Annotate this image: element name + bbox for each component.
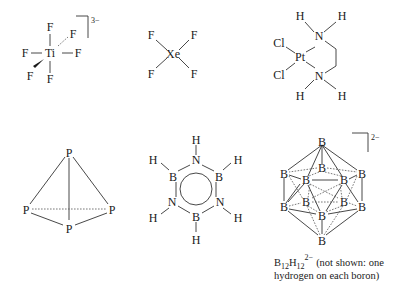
bond	[324, 80, 336, 89]
atom-h: H	[149, 153, 158, 167]
atom-cl: Cl	[273, 36, 285, 50]
atom-f: F	[47, 20, 54, 34]
structure-p4: P P P P	[23, 146, 116, 236]
atom-p: P	[66, 146, 73, 160]
bond	[325, 41, 336, 49]
atom-b: B	[302, 195, 310, 209]
atom-h: H	[192, 233, 201, 247]
atom-b: B	[318, 161, 326, 175]
dashed-bond	[289, 203, 301, 206]
structure-pt-complex: Cl Cl Pt N N H H H H	[273, 9, 346, 103]
atom-b: B	[318, 209, 326, 223]
atom-p: P	[109, 203, 116, 217]
atom-f: F	[27, 69, 34, 83]
charge-label: 3−	[91, 16, 100, 25]
atom-f: F	[148, 67, 155, 81]
structure-borazine: N B B N N B H H H H H H	[149, 133, 243, 247]
charge-bracket	[76, 16, 88, 38]
bond	[289, 209, 316, 214]
atom-h: H	[234, 153, 243, 167]
atom-f: F	[70, 27, 77, 41]
atom-b: B	[169, 170, 177, 184]
atom-f: F	[47, 72, 54, 86]
atom-n: N	[168, 195, 177, 209]
dashed-bond	[58, 37, 68, 46]
bond	[286, 63, 295, 70]
bond	[286, 47, 295, 53]
bond	[306, 47, 315, 52]
caption-line-2: hydrogen on each boron)	[274, 270, 380, 282]
atom-n: N	[315, 29, 324, 43]
bond	[31, 213, 63, 225]
atom-ti: Ti	[45, 46, 56, 60]
atom-b: B	[340, 195, 348, 209]
bond	[223, 163, 231, 170]
atom-n: N	[315, 69, 324, 83]
bond	[326, 211, 358, 235]
bond	[306, 62, 315, 68]
bond	[305, 22, 314, 32]
atom-pt: Pt	[295, 50, 306, 64]
wedge-bond	[33, 59, 44, 68]
caption-formula: B12H122−(not shown: one	[274, 253, 384, 271]
atom-h: H	[338, 89, 347, 103]
atom-h: H	[296, 89, 305, 103]
bond	[161, 163, 169, 170]
bond	[324, 22, 336, 32]
atom-b: B	[318, 234, 326, 248]
structure-b12h12: B B B B B B B B B B B B 2− B12H122−(not …	[274, 133, 384, 282]
bond	[286, 184, 300, 203]
bond	[289, 175, 301, 179]
charge-bracket	[352, 133, 368, 152]
bond	[288, 145, 322, 170]
atom-h: H	[338, 9, 347, 23]
atom-n: N	[192, 153, 201, 167]
bond	[178, 165, 190, 171]
bond	[30, 157, 65, 204]
atom-h: H	[234, 211, 243, 225]
atom-f: F	[148, 28, 155, 42]
atom-b: B	[302, 173, 310, 187]
bond	[305, 80, 314, 89]
bond	[178, 206, 190, 213]
atom-b: B	[358, 200, 366, 214]
atom-b: B	[192, 210, 200, 224]
charge-label: 2−	[371, 133, 380, 142]
atom-h: H	[296, 9, 305, 23]
bond	[179, 58, 189, 68]
bond	[73, 157, 108, 204]
atom-b: B	[340, 173, 348, 187]
atom-b: B	[318, 135, 326, 149]
bond	[202, 206, 214, 213]
atom-cl: Cl	[273, 68, 285, 82]
atom-b: B	[215, 170, 223, 184]
atom-p: P	[66, 222, 73, 236]
bond	[179, 40, 189, 50]
atom-xe: Xe	[166, 47, 180, 61]
atom-f: F	[22, 46, 29, 60]
dashed-bond	[289, 168, 317, 172]
atom-h: H	[192, 133, 201, 147]
molecule-figure: Ti F F F F F F 3− Xe F F F F	[0, 0, 403, 289]
structure-xef4: Xe F F F F	[148, 28, 198, 81]
dashed-bond	[325, 172, 341, 176]
dashed-bond	[349, 203, 357, 206]
atom-f: F	[75, 46, 82, 60]
dashed-bond	[327, 168, 357, 172]
dashed-bond	[310, 184, 338, 198]
atom-n: N	[216, 195, 225, 209]
atom-f: F	[191, 67, 198, 81]
aromatic-ring	[180, 173, 212, 205]
atom-b: B	[358, 167, 366, 181]
atom-h: H	[149, 211, 158, 225]
structure-tif6: Ti F F F F F F 3−	[22, 16, 100, 86]
bond	[322, 145, 357, 170]
bond	[75, 213, 107, 225]
bond	[325, 66, 336, 73]
atom-p: P	[23, 203, 30, 217]
atom-b: B	[280, 200, 288, 214]
atom-f: F	[191, 28, 198, 42]
bond	[288, 211, 318, 235]
atom-b: B	[280, 167, 288, 181]
bond	[202, 165, 214, 171]
